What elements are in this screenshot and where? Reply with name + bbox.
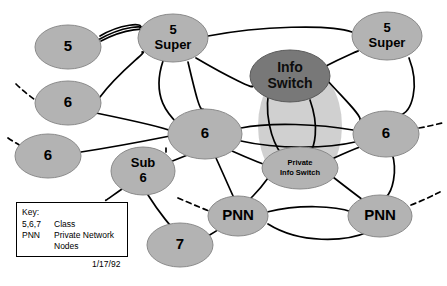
key-row-class: 5,6,7 Class xyxy=(22,219,122,230)
node-npriv[interactable]: PrivateInfo Switch xyxy=(262,147,338,189)
edge-link xyxy=(322,51,358,68)
node-n7[interactable]: 7 xyxy=(147,223,213,267)
node-n5a[interactable]: 5 xyxy=(35,25,101,69)
edge-link xyxy=(96,113,171,131)
node-shape xyxy=(147,223,213,267)
node-shape xyxy=(352,12,422,60)
edge-link xyxy=(333,177,364,201)
node-n6_center[interactable]: 6 xyxy=(168,109,242,159)
node-shape xyxy=(111,147,175,195)
node-n6_left[interactable]: 6 xyxy=(15,134,81,178)
node-shape xyxy=(35,25,101,69)
node-shape xyxy=(35,81,101,125)
edge-link xyxy=(208,27,352,36)
node-nsub6[interactable]: Sub6 xyxy=(111,147,175,195)
edge-link xyxy=(188,62,203,109)
key-def-class: Class xyxy=(54,219,122,230)
diagram-canvas: 55Super5Super6666InfoSwitchPrivateInfo S… xyxy=(0,0,447,286)
key-term-class: 5,6,7 xyxy=(22,219,54,230)
edge-link xyxy=(100,52,143,97)
node-ninfo[interactable]: InfoSwitch xyxy=(250,50,330,102)
edge-link xyxy=(159,61,180,126)
edge-link-dashed xyxy=(411,192,440,205)
node-shape xyxy=(15,134,81,178)
node-shape xyxy=(138,14,208,62)
node-shape xyxy=(262,147,338,189)
edge-link-dashed xyxy=(419,123,442,128)
node-shape xyxy=(348,195,412,237)
edge-link xyxy=(216,158,234,198)
node-shape xyxy=(353,111,419,157)
node-npnn_r[interactable]: PNN xyxy=(348,195,412,237)
key-title: Key: xyxy=(22,207,122,218)
key-def-pnn-continuation: Nodes xyxy=(22,241,122,252)
date-label: 1/17/92 xyxy=(92,259,120,269)
node-npnn_l[interactable]: PNN xyxy=(208,196,268,236)
node-n5super_l[interactable]: 5Super xyxy=(138,14,208,62)
node-shape xyxy=(250,50,330,102)
node-n5super_r[interactable]: 5Super xyxy=(352,12,422,60)
key-def-pnn: Private Network xyxy=(54,230,122,241)
key-legend-box: Key: 5,6,7 Class PNN Private Network Nod… xyxy=(16,202,128,257)
node-n6_upleft[interactable]: 6 xyxy=(35,81,101,125)
edge-link-dashed xyxy=(178,198,212,212)
node-shape xyxy=(208,196,268,236)
edge-link xyxy=(232,151,266,165)
edge-link xyxy=(196,58,252,87)
key-term-pnn: PNN xyxy=(22,230,54,241)
key-row-pnn: PNN Private Network xyxy=(22,230,122,241)
node-n6_right[interactable]: 6 xyxy=(353,111,419,157)
node-shape xyxy=(168,109,242,159)
edge-link xyxy=(400,58,414,115)
edge-link xyxy=(106,189,122,200)
edge-link xyxy=(386,153,394,197)
edge-link xyxy=(267,207,352,212)
